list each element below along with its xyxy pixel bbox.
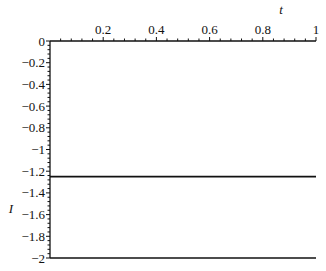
- y-tick-label: −0.4: [21, 77, 45, 92]
- axes: [46, 37, 316, 258]
- y-tick-label: 0: [39, 34, 46, 49]
- series-layer: [50, 177, 316, 258]
- chart: 0.20.40.60.810−0.2−0.4−0.6−0.8−1−1.2−1.4…: [0, 0, 326, 271]
- y-tick-label: −0.2: [21, 55, 45, 70]
- y-tick-label: −0.8: [21, 120, 45, 135]
- x-tick-label: 0.8: [255, 22, 271, 37]
- x-tick-label: 0.6: [201, 22, 218, 37]
- x-tick-label: 0.2: [95, 22, 111, 37]
- y-tick-label: −1: [31, 142, 45, 157]
- y-tick-label: −0.6: [21, 99, 45, 114]
- y-tick-label: −1.6: [21, 207, 45, 222]
- x-axis-title: t: [279, 2, 283, 17]
- x-tick-label: 0.4: [148, 22, 165, 37]
- y-tick-label: −2: [31, 251, 45, 266]
- y-tick-label: −1.4: [21, 185, 45, 200]
- y-axis-title: I: [8, 201, 14, 216]
- y-tick-label: −1.8: [21, 229, 45, 244]
- x-tick-label: 1: [313, 22, 320, 37]
- y-tick-label: −1.2: [21, 164, 45, 179]
